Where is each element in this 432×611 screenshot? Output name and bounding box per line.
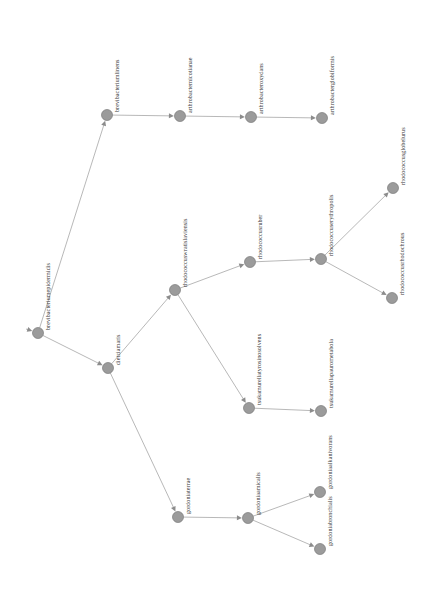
graph-node[interactable] — [173, 512, 184, 523]
edge-arrowhead — [240, 114, 245, 119]
graph-node[interactable] — [103, 363, 114, 374]
graph-node[interactable] — [102, 110, 113, 121]
graph-edge — [253, 520, 312, 545]
graph-edge — [183, 517, 239, 518]
edges-layer — [26, 115, 387, 545]
graph-edge — [254, 408, 312, 410]
graph-node[interactable] — [175, 111, 186, 122]
arrows-layer — [27, 113, 389, 547]
graph-edge — [43, 335, 100, 364]
edge-arrowhead — [310, 257, 315, 262]
graph-node[interactable] — [316, 406, 327, 417]
graph-edge — [178, 295, 244, 401]
graph-node[interactable] — [244, 403, 255, 414]
graph-edge — [256, 117, 313, 118]
graph-edge — [325, 194, 387, 255]
graph-node[interactable] — [315, 487, 326, 498]
graph-node[interactable] — [317, 113, 328, 124]
graph-edge — [112, 297, 170, 364]
graph-node[interactable] — [246, 112, 257, 123]
graph-node[interactable] — [170, 285, 181, 296]
graph-edge — [253, 495, 312, 516]
graph-edge — [112, 115, 171, 116]
graph-edge — [110, 373, 174, 509]
graph-node[interactable] — [316, 254, 327, 265]
graph-edge — [40, 123, 105, 327]
graph-node[interactable] — [388, 183, 399, 194]
graph-edge — [255, 259, 312, 261]
edge-arrowhead — [310, 408, 315, 413]
graph-svg — [0, 0, 432, 611]
graph-node[interactable] — [33, 328, 44, 339]
graph-node[interactable] — [245, 257, 256, 268]
edge-arrowhead — [237, 515, 242, 520]
graph-node[interactable] — [315, 544, 326, 555]
edge-arrowhead — [101, 121, 106, 127]
edge-arrowhead — [27, 327, 33, 332]
graph-node[interactable] — [243, 513, 254, 524]
graph-node[interactable] — [387, 293, 398, 304]
edge-arrowhead — [241, 397, 246, 403]
graph-edge — [326, 262, 385, 294]
graph-canvas: brevibacteriumepidermidisbrevibacteriuml… — [0, 0, 432, 611]
edge-arrowhead — [169, 113, 174, 118]
graph-edge — [180, 265, 242, 288]
edge-arrowhead — [311, 115, 316, 120]
graph-edge — [185, 116, 242, 117]
